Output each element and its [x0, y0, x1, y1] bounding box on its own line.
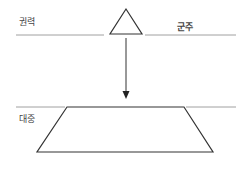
masses-trapezoid	[37, 107, 213, 152]
monarch-triangle	[110, 9, 142, 34]
label-monarch: 군주	[177, 20, 193, 33]
label-power: 권력	[19, 15, 35, 28]
label-masses: 대중	[19, 112, 35, 125]
diagram-canvas	[0, 0, 250, 174]
arrow-head-icon	[123, 91, 130, 99]
